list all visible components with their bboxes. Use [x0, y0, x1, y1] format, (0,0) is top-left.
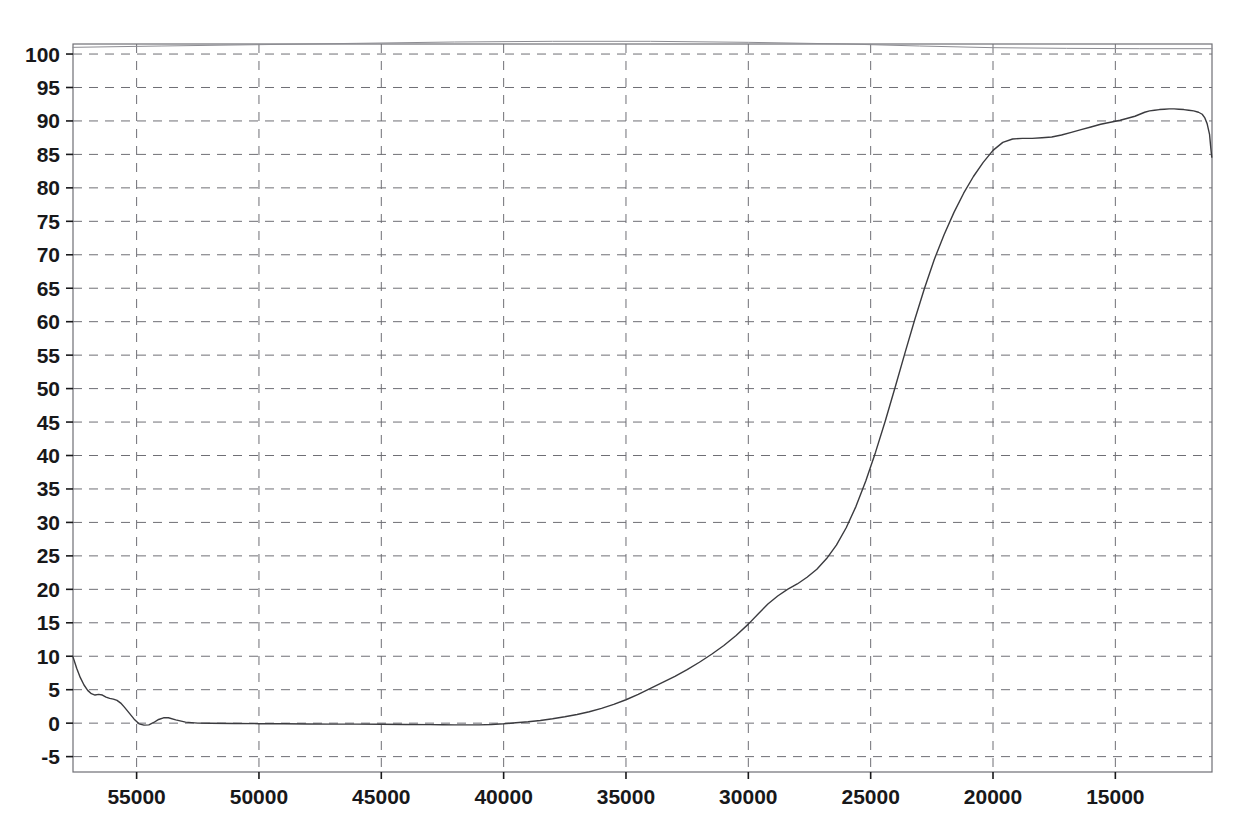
x-tick-label: 30000 — [719, 785, 777, 808]
x-tick-label: 25000 — [841, 785, 899, 808]
y-tick-label: 70 — [37, 243, 60, 266]
y-tick-label: 50 — [37, 377, 60, 400]
y-tick-label: 5 — [48, 678, 60, 701]
y-tick-label: -5 — [41, 745, 60, 768]
y-tick-label: 0 — [48, 712, 60, 735]
x-tick-label: 20000 — [964, 785, 1022, 808]
y-tick-label: 15 — [37, 611, 61, 634]
y-tick-label: 20 — [37, 578, 60, 601]
y-tick-label: 60 — [37, 310, 60, 333]
y-tick-label: 55 — [37, 344, 61, 367]
y-tick-label: 65 — [37, 277, 61, 300]
x-tick-label: 40000 — [474, 785, 532, 808]
y-tick-label: 90 — [37, 109, 60, 132]
y-tick-label: 35 — [37, 477, 61, 500]
y-tick-label: 95 — [37, 76, 61, 99]
y-tick-label: 10 — [37, 645, 60, 668]
x-tick-label: 45000 — [352, 785, 410, 808]
x-tick-label: 35000 — [597, 785, 655, 808]
spectrum-chart: -505101520253035404550556065707580859095… — [0, 0, 1251, 840]
x-tick-label: 55000 — [107, 785, 165, 808]
y-tick-label: 30 — [37, 511, 60, 534]
y-tick-label: 40 — [37, 444, 60, 467]
chart-container: -505101520253035404550556065707580859095… — [0, 0, 1251, 840]
x-tick-label: 15000 — [1086, 785, 1144, 808]
x-tick-label: 50000 — [230, 785, 288, 808]
y-tick-label: 75 — [37, 210, 61, 233]
y-tick-label: 100 — [25, 43, 60, 66]
y-tick-label: 85 — [37, 143, 61, 166]
y-tick-label: 80 — [37, 176, 60, 199]
y-tick-label: 25 — [37, 544, 61, 567]
y-tick-label: 45 — [37, 411, 61, 434]
x-axis-tick-labels: 5500050000450004000035000300002500020000… — [107, 785, 1144, 808]
